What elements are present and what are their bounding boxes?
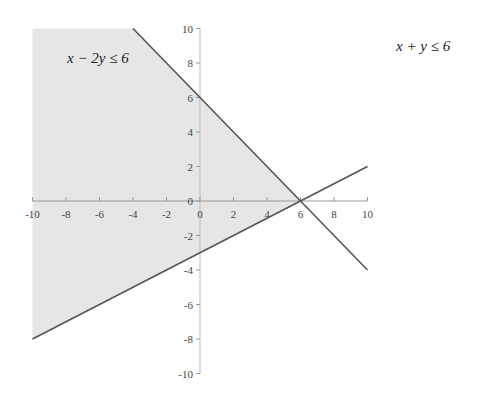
x-tick-label: -2 (162, 208, 171, 220)
y-tick-label: 6 (188, 92, 194, 104)
x-tick-label: 8 (331, 208, 337, 220)
annotation-x-plus-y: x + y ≤ 6 (396, 38, 450, 55)
y-tick-label: 2 (188, 161, 194, 173)
y-tick-label: 10 (182, 23, 194, 35)
x-tick-label: 0 (197, 208, 203, 220)
x-tick-label: -4 (128, 208, 138, 220)
feasible-region (33, 29, 301, 340)
x-tick-label: -10 (25, 208, 40, 220)
y-tick-label: 4 (188, 126, 194, 138)
annotation-x-minus-2y: x − 2y ≤ 6 (67, 50, 129, 67)
y-tick-label: -6 (184, 299, 194, 311)
y-tick-label: -8 (184, 333, 194, 345)
x-tick-label: 10 (362, 208, 374, 220)
y-tick-label: -2 (184, 230, 193, 242)
y-tick-label: -10 (178, 368, 193, 380)
x-tick-label: -6 (95, 208, 105, 220)
x-tick-label: 2 (231, 208, 237, 220)
y-tick-label: -4 (184, 264, 194, 276)
x-tick-label: 6 (298, 208, 304, 220)
y-tick-label: 0 (188, 195, 194, 207)
y-tick-label: 8 (188, 57, 194, 69)
x-tick-label: -8 (61, 208, 71, 220)
